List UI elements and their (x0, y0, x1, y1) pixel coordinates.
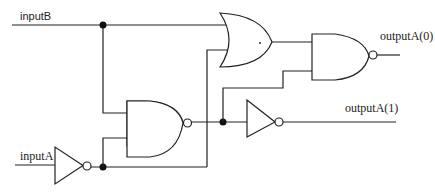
wire-inputB-to-nand1 (103, 25, 127, 113)
inversion-bubble (369, 51, 377, 59)
nand-gate-2 (312, 34, 377, 80)
or-gate-dot (259, 42, 261, 44)
label-outputA0: outputA(0) (380, 29, 433, 43)
or-gate (220, 13, 272, 67)
logic-circuit-diagram: inputB inputA outputA(0) outputA(1) (0, 0, 435, 196)
inversion-bubble (184, 119, 192, 127)
wire-nand1-to-nand2 (223, 71, 312, 122)
wire-not1-to-nand1 (103, 138, 127, 167)
junction-dot-inputB (100, 22, 107, 29)
inversion-bubble (83, 162, 91, 170)
not-gate-2 (247, 100, 283, 137)
label-inputA: inputA (20, 149, 54, 163)
inversion-bubble (275, 118, 283, 126)
not-gate-1 (55, 147, 91, 184)
nand-gate-1 (127, 101, 192, 157)
label-inputB: inputB (20, 10, 51, 22)
label-outputA1: outputA(1) (345, 101, 398, 115)
